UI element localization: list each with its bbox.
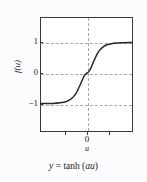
ytick-label-1: 1: [24, 37, 38, 46]
caption-function: tanh (: [63, 161, 85, 171]
ytick-mark-neg1: [40, 104, 43, 105]
ytick-mark-0: [40, 73, 43, 74]
ytick-label-neg1: −1: [24, 99, 38, 108]
caption-close-paren: ): [95, 161, 98, 171]
xtick-mark-right: [109, 132, 110, 135]
figure-caption: y = tanh (au): [0, 161, 147, 171]
ytick-label-group: 1 0 −1: [22, 0, 38, 182]
caption-argument: au: [85, 161, 95, 171]
tanh-activation-figure: 1 0 −1 f(u) 0 u y = tanh (au): [0, 0, 147, 182]
plot-frame: [40, 17, 133, 132]
xtick-mark-left: [65, 132, 66, 135]
xtick-label-0: 0: [77, 135, 97, 144]
tanh-curve: [41, 18, 132, 131]
x-axis-title: u: [77, 145, 97, 153]
caption-equals: =: [53, 161, 63, 171]
ytick-label-0: 0: [24, 68, 38, 77]
y-axis-title: f(u): [13, 53, 22, 81]
ytick-mark-1: [40, 42, 43, 43]
